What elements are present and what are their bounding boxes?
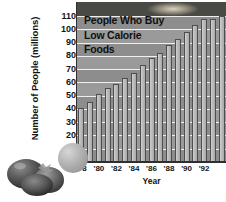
x-axis-tick-label: '84 (129, 164, 140, 173)
y-axis-title: Number of People (millions) (29, 4, 40, 154)
y-axis-line (76, 2, 77, 162)
y-axis-tick-labels: 110100908070605040302010 (54, 16, 76, 162)
bar (210, 19, 216, 162)
y-axis-tick-label: 60 (66, 78, 76, 87)
x-axis-tick-label: '86 (146, 164, 157, 173)
chart-title: People Who BuyLow CalorieFoods (84, 13, 204, 57)
x-axis-tick-label: '90 (181, 164, 192, 173)
bar (113, 84, 119, 162)
bar (105, 88, 111, 162)
bar (157, 53, 163, 162)
bar (122, 78, 128, 162)
y-axis-tick-label: 70 (66, 65, 76, 74)
y-axis-tick-label: 90 (66, 38, 76, 47)
y-axis-tick-label: 30 (66, 118, 76, 127)
bar (175, 39, 181, 162)
y-axis-tick-label: 20 (66, 131, 76, 140)
y-axis-tick-label: 100 (61, 25, 76, 34)
chart-figure: Number of People (millions) 110100908070… (0, 0, 226, 202)
bar (149, 58, 155, 162)
chart-title-line: Foods (84, 42, 204, 57)
bar (140, 65, 146, 162)
x-axis-tick-label: '92 (199, 164, 210, 173)
bar (166, 45, 172, 162)
y-axis-tick-label: 80 (66, 51, 76, 60)
x-axis-tick-label: '82 (111, 164, 122, 173)
y-axis-tick-label: 110 (61, 12, 76, 21)
chart-title-line: People Who Buy (84, 13, 204, 28)
tomatoes-photo-decoration (4, 152, 70, 198)
x-axis-line (76, 161, 226, 163)
bar (131, 73, 137, 162)
bar (87, 102, 93, 162)
x-axis-title: Year (77, 176, 226, 186)
bar (96, 94, 102, 162)
chart-title-line: Low Calorie (84, 28, 204, 43)
bar (219, 16, 225, 162)
x-axis-tick-label: '80 (94, 164, 105, 173)
y-axis-tick-label: 40 (66, 104, 76, 113)
x-axis-tick-labels: '78'80'82'84'86'88'90'92 (77, 164, 226, 176)
x-axis-tick-label: '88 (164, 164, 175, 173)
y-axis-tick-label: 50 (66, 91, 76, 100)
